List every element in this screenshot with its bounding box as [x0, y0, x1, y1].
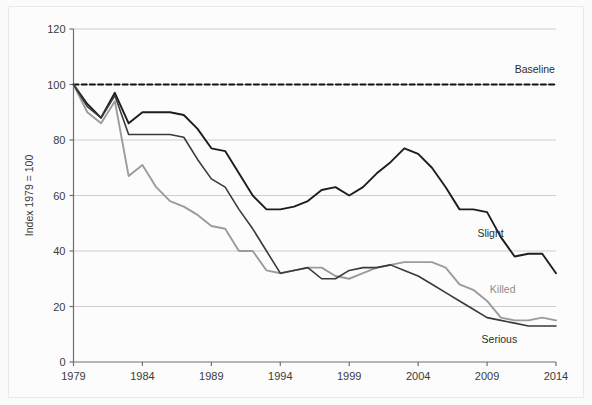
- y-axis-title: Index 1979 = 100: [23, 155, 35, 237]
- x-tick-label-1989: 1989: [199, 370, 223, 382]
- x-tick-label-1994: 1994: [268, 370, 292, 382]
- chart-figure: 0204060801001201979198419891994199920042…: [0, 0, 592, 405]
- y-tick-label-80: 80: [53, 134, 65, 146]
- y-tick-label-60: 60: [53, 190, 65, 202]
- series-label-slight: Slight: [477, 227, 503, 239]
- y-tick-label-120: 120: [47, 23, 65, 35]
- series-line-serious: [74, 85, 557, 326]
- series-label-serious: Serious: [482, 333, 518, 345]
- y-tick-label-0: 0: [59, 356, 65, 368]
- y-tick-label-100: 100: [47, 79, 65, 91]
- x-tick-label-1999: 1999: [337, 370, 361, 382]
- x-tick-label-1984: 1984: [130, 370, 154, 382]
- line-chart: 0204060801001201979198419891994199920042…: [0, 0, 592, 405]
- x-tick-label-1979: 1979: [61, 370, 85, 382]
- y-tick-label-20: 20: [53, 301, 65, 313]
- x-tick-label-2004: 2004: [406, 370, 430, 382]
- series-label-killed: Killed: [490, 283, 516, 295]
- series-label-baseline: Baseline: [515, 63, 555, 75]
- series-line-killed: [74, 85, 557, 321]
- x-tick-label-2009: 2009: [475, 370, 499, 382]
- x-tick-label-2014: 2014: [544, 370, 568, 382]
- y-tick-label-40: 40: [53, 245, 65, 257]
- series-line-slight: [74, 85, 557, 274]
